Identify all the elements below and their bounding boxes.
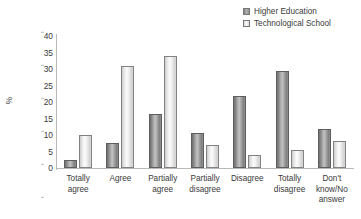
- x-axis-tick-label-line: disagree: [185, 185, 225, 196]
- x-axis-tick-label: Totallyagree: [57, 174, 99, 206]
- bar-group: [57, 36, 99, 168]
- y-axis-tick-label: 25: [44, 81, 53, 89]
- bar: [164, 56, 177, 168]
- x-axis-tick-label-line: Partially: [185, 174, 225, 185]
- x-axis-tick-label-line: Partially: [143, 174, 183, 185]
- bar-group: [268, 36, 310, 168]
- legend-label-technological-school: Technological School: [254, 19, 331, 28]
- x-axis-tick-label-line: answer: [312, 195, 352, 206]
- chart-legend: Higher Education Technological School: [243, 7, 331, 28]
- y-axis-tick-label: 5: [48, 147, 53, 155]
- y-axis-tick-mark: [41, 164, 44, 165]
- bar-group: [99, 36, 141, 168]
- bar: [318, 129, 331, 168]
- bar-group: [142, 36, 184, 168]
- legend-swatch-icon-technological-school: [243, 20, 250, 27]
- x-axis-tick-label-line: Disagree: [227, 174, 267, 185]
- y-axis-tick-label: 0: [48, 164, 53, 172]
- y-axis-tick-label: 30: [44, 65, 53, 73]
- x-axis-tick-label-line: Agree: [100, 174, 140, 185]
- y-axis-tick-label: 20: [44, 98, 53, 106]
- x-axis-tick-label: Don'tknow/Noanswer: [311, 174, 353, 206]
- x-axis-tick-label: Partiallydisagree: [184, 174, 226, 206]
- bar: [276, 71, 289, 168]
- bar: [121, 66, 134, 168]
- legend-label-higher-education: Higher Education: [254, 7, 317, 16]
- y-axis-tick-label: 15: [44, 114, 53, 122]
- legend-swatch-icon-higher-education: [243, 8, 250, 15]
- y-axis-tick-mark: [41, 197, 44, 198]
- bar: [191, 133, 204, 168]
- x-axis-tick-label-line: Totally: [269, 174, 309, 185]
- legend-item-higher-education: Higher Education: [243, 7, 331, 16]
- x-axis-tick-label: Agree: [99, 174, 141, 206]
- plot-area: 4035302520151050: [57, 36, 353, 168]
- x-axis-tick-label-line: agree: [58, 185, 98, 196]
- bar: [79, 135, 92, 168]
- legend-item-technological-school: Technological School: [243, 19, 331, 28]
- bar: [333, 141, 346, 168]
- bar-group: [311, 36, 353, 168]
- x-axis-tick-label-line: disagree: [269, 185, 309, 196]
- bar-group: [226, 36, 268, 168]
- x-axis-tick-label: Partiallyagree: [142, 174, 184, 206]
- bar: [233, 96, 246, 168]
- bar-group: [184, 36, 226, 168]
- bar-chart: Higher Education Technological School % …: [0, 0, 361, 219]
- x-axis-tick-label: Totallydisagree: [268, 174, 310, 206]
- bar: [291, 150, 304, 168]
- x-axis-labels: TotallyagreeAgreePartiallyagreePartially…: [57, 174, 353, 206]
- x-axis-line: [56, 168, 354, 169]
- bar: [64, 160, 77, 168]
- x-axis-tick-label-line: know/No: [312, 185, 352, 196]
- x-axis-tick-label-line: Totally: [58, 174, 98, 185]
- x-axis-tick-label-line: Don't: [312, 174, 352, 185]
- bar: [106, 143, 119, 168]
- y-axis-tick-mark: [41, 32, 44, 33]
- bar: [248, 155, 261, 168]
- bar-groups: [57, 36, 353, 168]
- y-axis-tick-label: 35: [44, 48, 53, 56]
- y-axis-tick-label: 40: [44, 32, 53, 40]
- x-axis-tick-label-line: agree: [143, 185, 183, 196]
- x-axis-tick-label: Disagree: [226, 174, 268, 206]
- bar: [149, 114, 162, 168]
- y-axis-tick-label: 10: [44, 131, 53, 139]
- bar: [206, 145, 219, 168]
- y-axis-title: %: [5, 97, 14, 104]
